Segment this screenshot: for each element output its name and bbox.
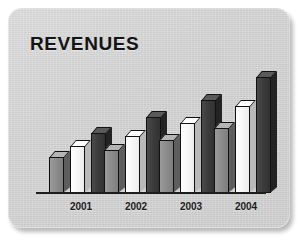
bar-2004-gray xyxy=(214,128,229,193)
bar-2002-white-front-face xyxy=(125,136,140,193)
axis-baseline xyxy=(36,192,266,194)
bar-2001-white xyxy=(70,146,85,193)
category-label-2003: 2003 xyxy=(168,201,214,212)
bar-2003-gray xyxy=(159,140,174,193)
bar-2001-gray xyxy=(49,157,64,193)
bar-2004-dark-front-face xyxy=(256,77,271,193)
bar-2002-white-side-face xyxy=(139,130,146,193)
bar-2004-white-front-face xyxy=(235,106,250,193)
bar-2001-gray-front-face xyxy=(49,157,64,193)
bar-2003-white xyxy=(180,123,195,193)
bar-2004-white xyxy=(235,106,250,193)
category-label-2002: 2002 xyxy=(113,201,159,212)
bar-2004-white-side-face xyxy=(249,100,256,193)
bar-2002-gray-side-face xyxy=(118,144,125,193)
bar-2002-gray xyxy=(104,150,119,193)
bar-2001-white-side-face xyxy=(84,140,91,193)
category-label-2001: 2001 xyxy=(58,201,104,212)
category-label-2004: 2004 xyxy=(223,201,269,212)
bar-2001-white-front-face xyxy=(70,146,85,193)
bar-2004-dark xyxy=(256,77,271,193)
bar-2004-dark-side-face xyxy=(270,71,277,193)
bar-2004-gray-front-face xyxy=(214,128,229,193)
chart-card: REVENUES 2001200220032004 xyxy=(8,8,290,228)
chart-title: REVENUES xyxy=(30,33,139,55)
bar-2002-gray-front-face xyxy=(104,150,119,193)
bar-2003-gray-front-face xyxy=(159,140,174,193)
bar-2003-white-front-face xyxy=(180,123,195,193)
bar-2003-white-side-face xyxy=(194,117,201,193)
bar-2003-gray-side-face xyxy=(173,134,180,193)
bar-2002-white xyxy=(125,136,140,193)
bar-2004-gray-side-face xyxy=(228,122,235,193)
